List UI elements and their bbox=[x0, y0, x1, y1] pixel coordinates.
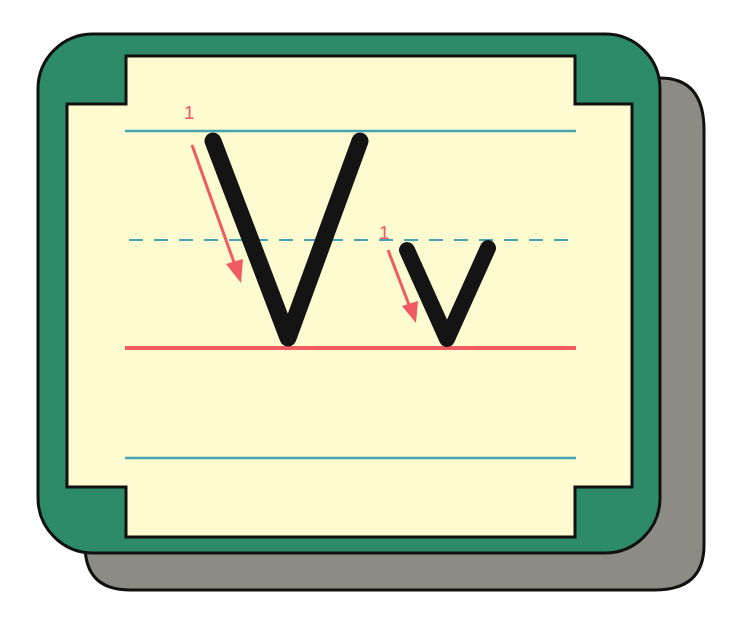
writing-panel bbox=[67, 56, 632, 537]
letter-v-handwriting-card: 1 1 V v bbox=[0, 0, 735, 625]
stroke-number-lower: 1 bbox=[379, 222, 390, 243]
stroke-number-upper: 1 bbox=[184, 102, 195, 123]
